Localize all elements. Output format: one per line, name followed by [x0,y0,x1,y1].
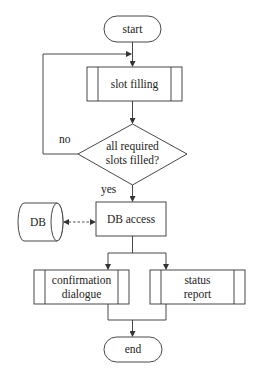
db-label: DB [30,216,46,228]
decision-label-line2: slots filled? [106,154,159,166]
status-label-line1: status [184,274,211,286]
end-label: end [125,343,142,355]
decision-label-line1: all required [106,140,159,153]
confirmation-dialogue-node: confirmation dialogue [34,270,129,304]
decision-node: all required slots filled? [78,124,187,185]
status-report-node: status report [150,270,245,304]
confirmation-label-line2: dialogue [62,288,102,301]
slot-filling-label: slot filling [111,78,159,91]
yes-label: yes [101,183,117,196]
start-label: start [123,23,144,35]
start-node: start [104,16,161,42]
db-access-label: DB access [107,213,156,225]
status-label-line2: report [184,288,212,301]
flowchart: start slot filling all required slots fi… [0,0,263,383]
db-access-node: DB access [96,202,166,236]
slot-filling-node: slot filling [87,67,182,101]
end-node: end [104,337,162,362]
db-node: DB [18,203,63,241]
merge-line [108,304,166,320]
confirmation-label-line1: confirmation [52,274,112,286]
no-label: no [59,133,71,145]
